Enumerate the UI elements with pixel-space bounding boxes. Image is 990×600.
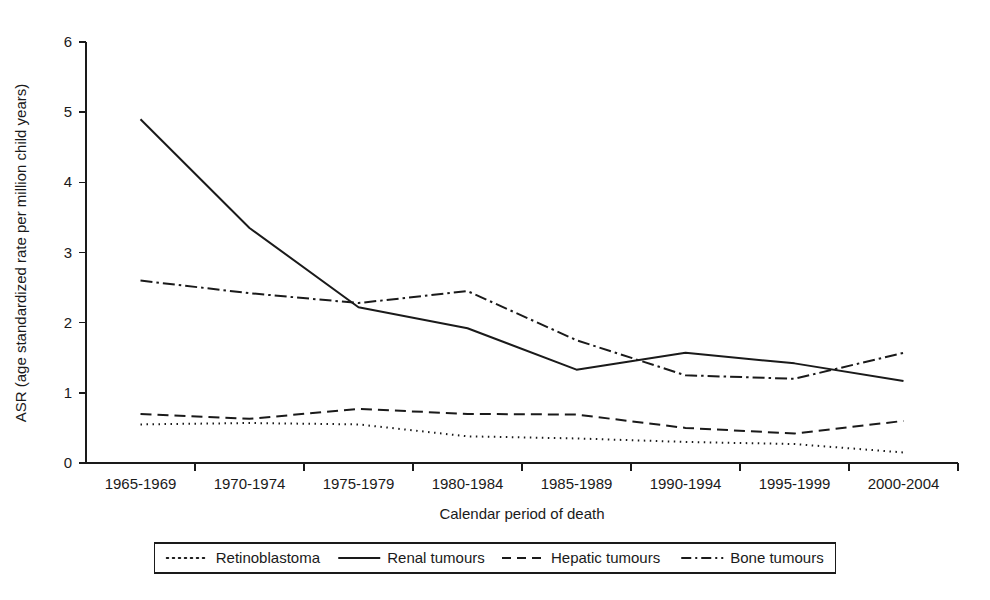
- chart-container: ASR (age standardized rate per million c…: [0, 0, 990, 600]
- y-tick-label: 1: [64, 384, 72, 401]
- legend-label-retinoblastoma: Retinoblastoma: [216, 549, 321, 566]
- y-tick-label: 2: [64, 314, 72, 331]
- y-tick-label: 6: [64, 33, 72, 50]
- x-tick-label: 1985-1989: [541, 475, 613, 492]
- x-axis-title: Calendar period of death: [439, 505, 604, 522]
- x-tick-label: 1995-1999: [759, 475, 831, 492]
- x-tick-label: 1965-1969: [105, 475, 177, 492]
- legend-label-bone-tumours: Bone tumours: [730, 549, 823, 566]
- line-chart-figure: ASR (age standardized rate per million c…: [0, 0, 990, 600]
- legend-label-hepatic-tumours: Hepatic tumours: [551, 549, 660, 566]
- legend-label-renal-tumours: Renal tumours: [387, 549, 485, 566]
- x-tick-label: 1980-1984: [432, 475, 504, 492]
- y-axis-title: ASR (age standardized rate per million c…: [12, 84, 29, 423]
- x-tick-label: 1990-1994: [650, 475, 722, 492]
- x-tick-label: 2000-2004: [868, 475, 940, 492]
- y-tick-label: 5: [64, 103, 72, 120]
- y-tick-label: 0: [64, 454, 72, 471]
- y-tick-label: 3: [64, 244, 72, 261]
- chart-legend: RetinoblastomaRenal tumoursHepatic tumou…: [155, 543, 836, 573]
- x-tick-label: 1975-1979: [323, 475, 395, 492]
- y-tick-label: 4: [64, 173, 72, 190]
- x-tick-label: 1970-1974: [214, 475, 286, 492]
